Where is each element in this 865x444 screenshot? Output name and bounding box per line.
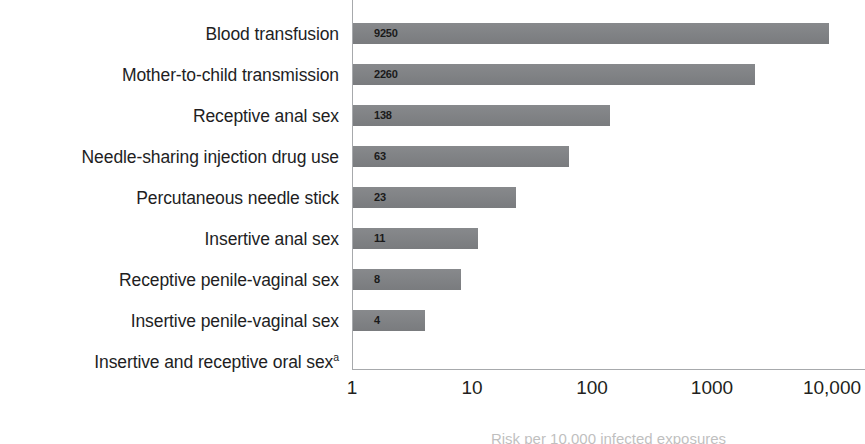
- plot-area: 9250226013863231184: [352, 0, 865, 370]
- category-label: Insertive penile-vaginal sex: [0, 313, 339, 331]
- x-tick-label: 1000: [691, 378, 733, 399]
- x-tick-label: 10: [461, 378, 482, 399]
- x-axis-line: [352, 369, 865, 370]
- category-label: Insertive and receptive oral sexa: [0, 354, 339, 372]
- bar: [353, 64, 755, 85]
- category-label: Receptive anal sex: [0, 108, 339, 126]
- x-tick-label: 10,000: [803, 378, 861, 399]
- x-axis-title: Risk per 10,000 infected exposures: [352, 430, 865, 444]
- x-axis-tick-labels: 110100100010,000: [352, 378, 865, 404]
- bar-value-label: 138: [374, 105, 392, 126]
- category-label: Insertive anal sex: [0, 231, 339, 249]
- bar-value-label: 11: [374, 228, 385, 249]
- bar-chart: Blood transfusionMother-to-child transmi…: [0, 0, 865, 444]
- bar: [353, 228, 478, 249]
- category-label: Blood transfusion: [0, 26, 339, 44]
- category-label: Mother-to-child transmission: [0, 67, 339, 85]
- bar-value-label: 4: [374, 310, 380, 331]
- bar: [353, 310, 425, 331]
- bar-value-label: 8: [374, 269, 380, 290]
- x-tick-label: 100: [576, 378, 608, 399]
- category-label: Receptive penile-vaginal sex: [0, 272, 339, 290]
- bar: [353, 269, 461, 290]
- bar: [353, 23, 829, 44]
- x-tick-label: 1: [347, 378, 358, 399]
- footnote-marker: a: [333, 351, 339, 363]
- bar-value-label: 2260: [374, 64, 398, 85]
- category-label: Needle-sharing injection drug use: [0, 149, 339, 167]
- category-axis-labels: Blood transfusionMother-to-child transmi…: [0, 0, 345, 370]
- bar-value-label: 23: [374, 187, 386, 208]
- category-label: Percutaneous needle stick: [0, 190, 339, 208]
- bar-value-label: 9250: [374, 23, 398, 44]
- bar-value-label: 63: [374, 146, 386, 167]
